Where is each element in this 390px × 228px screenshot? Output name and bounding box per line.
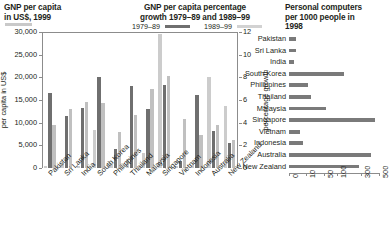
computers-bar <box>289 37 296 41</box>
computers-bar <box>289 72 344 76</box>
panel-title-computers-line3: 1998 <box>285 22 381 32</box>
y-tick-label-left: 25,000 <box>14 51 37 59</box>
bar-group <box>207 32 223 168</box>
y-tick-label-left: 30,000 <box>14 28 37 36</box>
y-tick-left <box>39 145 42 146</box>
panel-title-computers-line2: per 1000 people in <box>285 13 381 23</box>
computers-bar <box>289 141 303 145</box>
horizontal-bar-row: Australia <box>289 149 379 161</box>
computers-bar <box>289 107 326 111</box>
computers-x-tick <box>289 173 290 177</box>
bar-gnp <box>158 34 161 168</box>
computers-category-label: Indonesia <box>254 137 286 149</box>
horizontal-bar-row: Sri Lanka <box>289 45 379 57</box>
horizontal-bar-row: Pakistan <box>289 33 379 45</box>
horizontal-bar-row: Indonesia <box>289 137 379 149</box>
legend-gnp <box>5 23 32 26</box>
computers-bar <box>289 153 371 157</box>
y-tick-left <box>39 168 42 169</box>
panel-title-gnp: GNP per capita in US$, 1999 <box>4 3 124 22</box>
y-tick-left <box>39 100 42 101</box>
computers-x-tick <box>306 173 307 177</box>
bar-group <box>158 32 174 168</box>
horizontal-bar-row: Singapore <box>289 114 379 126</box>
bar-gnp <box>44 166 47 168</box>
y-tick-label-left: 0 <box>33 164 37 172</box>
y-axis-left-title: per capita in US$ <box>0 72 8 129</box>
computers-x-tick <box>379 173 380 177</box>
legend-label-1989-99: 1989–99 <box>204 23 232 31</box>
panel-title-computers: Personal computers per 1000 people in 19… <box>285 3 381 32</box>
panel-title-growth-line2: growth 1979–89 and 1989–99 <box>131 13 259 23</box>
y-tick-label-left: 15,000 <box>14 96 37 104</box>
panel-title-growth: GNP per capita percentage growth 1979–89… <box>131 3 259 22</box>
bar-growth-1979-89 <box>48 93 51 168</box>
computers-bar <box>289 118 375 122</box>
y-tick-label-left: 10,000 <box>14 119 37 127</box>
computers-x-tick-label: 100 <box>340 166 348 178</box>
horizontal-bar-row: Philippines <box>289 79 379 91</box>
computers-category-label: Australia <box>257 149 286 161</box>
computers-category-label: Sri Lanka <box>255 45 286 57</box>
y-tick-left <box>39 123 42 124</box>
bar-group <box>93 32 109 168</box>
computers-category-label: India <box>270 56 286 68</box>
y-tick-left <box>39 32 42 33</box>
legend-swatch-gnp <box>5 23 32 26</box>
computers-bar <box>289 130 300 134</box>
horizontal-bar-row: India <box>289 56 379 68</box>
computers-category-label: Vietnam <box>259 126 286 138</box>
computers-x-tick-label: 50 <box>327 170 335 178</box>
y-tick-label-left: 5,000 <box>19 141 38 149</box>
computers-x-tick-label: 10 <box>309 170 317 178</box>
computers-bar <box>289 83 308 87</box>
computers-category-label: New Zealand <box>242 161 286 173</box>
computers-bar <box>289 165 359 169</box>
combined-bar-plot: per capita in US$ percentage growth 05,0… <box>42 32 238 168</box>
y-tick-label-right: 12 <box>243 28 251 36</box>
y-tick-label-right: 10 <box>243 51 251 59</box>
computers-category-label: Philippines <box>250 79 286 91</box>
panel-title-gnp-line1: GNP per capita <box>4 3 124 13</box>
bar-group <box>142 32 158 168</box>
panel-title-gnp-line2: in US$, 1999 <box>4 13 124 23</box>
y-tick-left <box>39 77 42 78</box>
computers-category-label: Singapore <box>252 114 286 126</box>
computers-category-label: South Korea <box>245 68 286 80</box>
y-tick-label-right: 2 <box>243 141 247 149</box>
computers-bar <box>289 49 296 53</box>
computers-x-tick-label: 0 <box>292 174 300 178</box>
legend-swatch-1979-89 <box>165 25 190 28</box>
computers-category-label: Malaysia <box>257 103 286 115</box>
y-tick-label-right: 6 <box>243 96 247 104</box>
horizontal-bar-row: Malaysia <box>289 103 379 115</box>
bar-growth-1979-89 <box>97 77 100 168</box>
computers-x-tick <box>337 173 338 177</box>
computers-x-tick <box>361 173 362 177</box>
horizontal-bar-row: Vietnam <box>289 126 379 138</box>
horizontal-bar-row: Thailand <box>289 91 379 103</box>
computers-category-label: Pakistan <box>258 33 286 45</box>
bar-group <box>60 32 76 168</box>
bar-group <box>44 32 60 168</box>
computers-category-label: Thailand <box>258 91 286 103</box>
y-tick-label-left: 20,000 <box>14 73 37 81</box>
legend-label-1979-89: 1979–89 <box>132 23 160 31</box>
y-tick-left <box>39 55 42 56</box>
panel-title-growth-line1: GNP per capita percentage <box>131 3 259 13</box>
y-tick-label-right: 4 <box>243 119 247 127</box>
horizontal-bar-row: South Korea <box>289 68 379 80</box>
panel-title-computers-line1: Personal computers <box>285 3 381 13</box>
computers-bar <box>289 60 294 64</box>
computers-x-tick-label: 500 <box>382 166 390 178</box>
bar-group <box>191 32 207 168</box>
computers-x-tick <box>324 173 325 177</box>
computers-bar-plot: PakistanSri LankaIndiaSouth KoreaPhilipp… <box>289 33 379 181</box>
computers-bar <box>289 95 311 99</box>
bar-growth-1989-99 <box>101 103 104 168</box>
bar-group <box>223 32 239 168</box>
computers-x-tick-label: 300 <box>364 166 372 178</box>
bar-group <box>76 32 92 168</box>
